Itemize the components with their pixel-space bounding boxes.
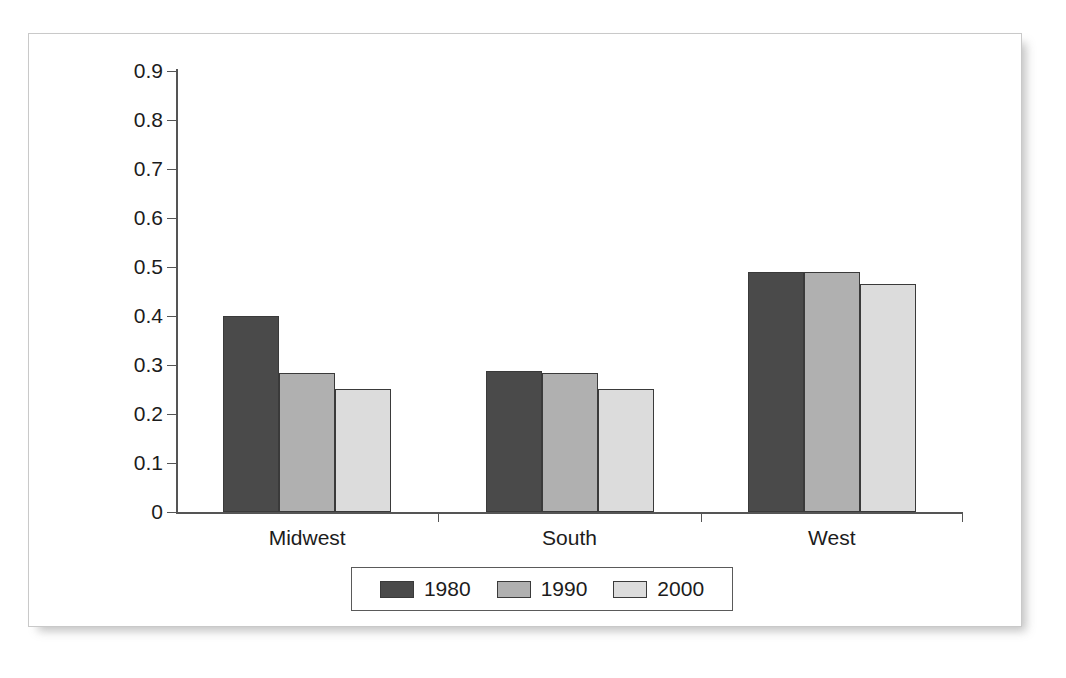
x-axis-line xyxy=(176,512,963,514)
y-axis-tick-label: 0.7 xyxy=(134,157,163,180)
y-axis-tick-mark xyxy=(167,365,176,366)
y-axis-tick-mark xyxy=(167,218,176,219)
legend: 198019902000 xyxy=(351,567,733,611)
y-axis-tick-label: 0.1 xyxy=(134,451,163,474)
bar-midwest-1980 xyxy=(223,316,279,512)
legend-label-1990: 1990 xyxy=(541,577,588,601)
y-axis-tick-label: 0.9 xyxy=(134,59,163,82)
legend-item-2000: 2000 xyxy=(613,577,704,601)
bar-west-1990 xyxy=(804,272,860,512)
y-axis-tick-label: 0.3 xyxy=(134,353,163,376)
legend-swatch-1980 xyxy=(380,581,414,598)
legend-item-1980: 1980 xyxy=(380,577,471,601)
legend-item-1990: 1990 xyxy=(497,577,588,601)
legend-swatch-1990 xyxy=(497,581,531,598)
category-label-midwest: Midwest xyxy=(269,526,346,550)
figure-card: 0.90.80.70.60.50.40.30.20.10 MidwestSout… xyxy=(28,33,1022,627)
bar-group-west xyxy=(748,71,916,512)
bar-west-1980 xyxy=(748,272,804,512)
y-axis-tick-label: 0 xyxy=(151,500,163,523)
y-axis-tick-mark xyxy=(167,316,176,317)
x-axis-separator-tick xyxy=(701,512,702,522)
y-axis-tick-mark xyxy=(167,463,176,464)
bar-south-2000 xyxy=(598,389,654,512)
legend-label-2000: 2000 xyxy=(657,577,704,601)
y-axis-tick-mark xyxy=(167,169,176,170)
y-axis-tick-label: 0.4 xyxy=(134,304,163,327)
y-axis-tick-label: 0.8 xyxy=(134,108,163,131)
bar-south-1990 xyxy=(542,373,598,512)
y-axis-tick-label: 0.2 xyxy=(134,402,163,425)
category-label-west: West xyxy=(808,526,855,550)
y-axis-line xyxy=(176,69,178,513)
bar-group-midwest xyxy=(223,71,391,512)
y-axis-tick-mark xyxy=(167,512,176,513)
legend-swatch-2000 xyxy=(613,581,647,598)
y-axis-tick-mark xyxy=(167,120,176,121)
legend-label-1980: 1980 xyxy=(424,577,471,601)
bar-midwest-2000 xyxy=(335,389,391,512)
y-axis-tick-mark xyxy=(167,71,176,72)
x-axis-end-tick xyxy=(962,512,963,522)
bar-west-2000 xyxy=(860,284,916,512)
y-axis-tick-mark xyxy=(167,414,176,415)
x-axis-separator-tick xyxy=(438,512,439,522)
y-axis-tick-label: 0.5 xyxy=(134,255,163,278)
bar-group-south xyxy=(486,71,654,512)
plot-area: 0.90.80.70.60.50.40.30.20.10 MidwestSout… xyxy=(176,71,963,512)
bar-south-1980 xyxy=(486,371,542,512)
bar-midwest-1990 xyxy=(279,373,335,512)
y-axis-tick-label: 0.6 xyxy=(134,206,163,229)
category-label-south: South xyxy=(542,526,597,550)
y-axis-tick-mark xyxy=(167,267,176,268)
